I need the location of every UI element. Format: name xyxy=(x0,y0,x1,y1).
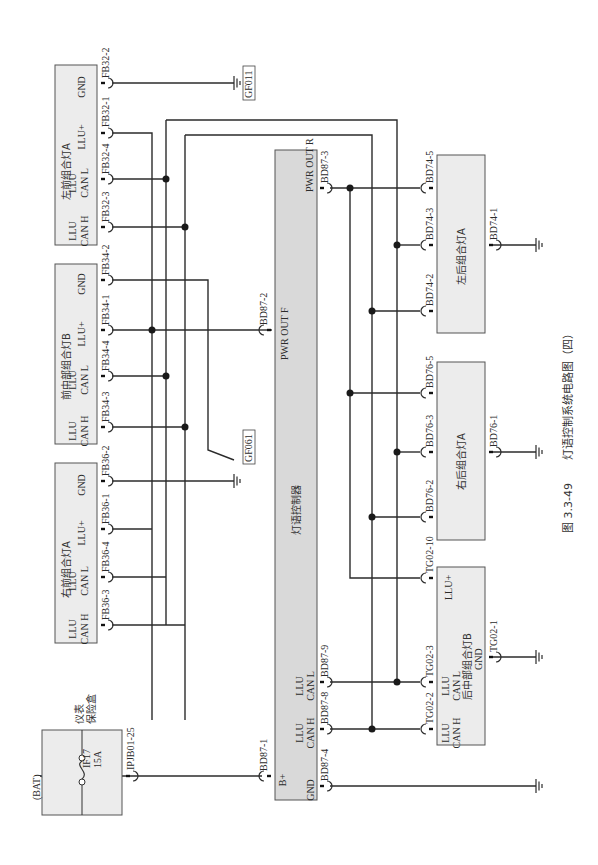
junction-dot xyxy=(394,679,401,686)
ground-icon xyxy=(234,76,240,90)
pin-label: CAN L xyxy=(79,566,90,596)
pin-label: GND xyxy=(76,474,87,496)
pin-label: LLU xyxy=(67,619,78,639)
pin-label: CAN L xyxy=(79,365,90,395)
junction-dot xyxy=(394,449,401,456)
connector-label: BD76-1 xyxy=(488,415,499,447)
rear-center-lamp-b-name: 后中部组合灯B xyxy=(461,633,473,700)
connector-label: BD87-4 xyxy=(319,749,330,781)
connector-label: BD87-3 xyxy=(319,151,330,183)
connector-label: BD87-9 xyxy=(319,645,330,677)
junction-dot xyxy=(347,185,354,192)
connector-label: FB34-4 xyxy=(100,340,111,371)
ground-icon xyxy=(536,779,542,793)
wire-fb34-gnd xyxy=(112,280,234,460)
junction-dot xyxy=(369,514,376,521)
connector-label: FB32-3 xyxy=(100,191,111,222)
junction-dot xyxy=(347,390,354,397)
connector-icon xyxy=(101,222,113,232)
pin-label: CAN L xyxy=(79,168,90,198)
pin-label: LLU xyxy=(294,676,305,696)
connector-icon xyxy=(421,240,433,250)
connector-label: FB36-1 xyxy=(100,493,111,524)
junction-dot xyxy=(369,726,376,733)
connector-icon xyxy=(101,275,113,285)
wiring-diagram: GF011 GF061 xyxy=(0,0,598,865)
pin-label: CAN H xyxy=(79,216,90,247)
pin-label: LLU xyxy=(67,221,78,241)
fuse-box-name-line2: 保险盒 xyxy=(85,694,97,724)
connector-label: FB36-3 xyxy=(100,589,111,620)
connector-label: FB36-2 xyxy=(100,445,111,476)
figure-caption-number: 图 3.3-49 xyxy=(562,483,575,533)
b-plus-label: B+ xyxy=(277,773,288,786)
connector-label: BD87-2 xyxy=(258,293,269,325)
connector-icon xyxy=(101,78,113,88)
pwr-out-f-label: PWR OUT F xyxy=(279,307,290,360)
connector-label: BD87-8 xyxy=(319,692,330,724)
junction-dot xyxy=(163,373,170,380)
connector-label: BD76-3 xyxy=(424,415,435,447)
connector-icon xyxy=(101,620,113,630)
pwr-out-r-label: PWR OUT R xyxy=(304,138,315,192)
connector-icon xyxy=(421,388,433,398)
bat-label: (BAT) xyxy=(31,774,43,800)
pin-label: CAN H xyxy=(305,718,316,749)
connector-label: BD74-3 xyxy=(424,208,435,240)
connector-icon xyxy=(421,183,433,193)
connector-label: IPJB01-25 xyxy=(125,727,136,770)
fuse-rating: 15A xyxy=(92,750,103,768)
pin-label: LLU+ xyxy=(76,321,87,346)
pin-label: GND xyxy=(473,648,484,670)
junction-dot xyxy=(369,308,376,315)
connector-label: BD74-1 xyxy=(488,208,499,240)
connector-label: FB32-2 xyxy=(100,47,111,78)
controller-name: 灯语控制器 xyxy=(290,485,302,535)
pin-label: LLU xyxy=(294,723,305,743)
fuse-id: IF17 xyxy=(81,749,92,768)
pin-label: CAN H xyxy=(79,416,90,447)
junction-dot xyxy=(149,327,156,334)
connector-icon xyxy=(101,476,113,486)
connector-icon xyxy=(421,447,433,457)
light-language-controller-box xyxy=(275,150,317,800)
connector-icon xyxy=(421,677,433,687)
pin-label: LLU xyxy=(67,571,78,591)
connector-icon xyxy=(101,325,113,335)
junction-dot xyxy=(182,224,189,231)
connector-label: TG02-3 xyxy=(424,645,435,677)
connector-icon xyxy=(101,572,113,582)
connector-label: TG02-2 xyxy=(424,692,435,724)
pin-label: LLU+ xyxy=(76,124,87,149)
connector-label: FB34-1 xyxy=(100,294,111,325)
pin-label: LLU xyxy=(67,421,78,441)
left-rear-lamp-a-name: 左后组合灯A xyxy=(455,228,467,285)
figure-caption-title: 灯语控制系统电路图（四） xyxy=(561,328,575,460)
pin-label: LLU xyxy=(440,723,451,743)
ground-label-gf061: GF061 xyxy=(243,434,254,462)
connector-icon xyxy=(101,174,113,184)
pin-label: GND xyxy=(76,76,87,98)
connector-icon xyxy=(421,306,433,316)
fuse-box-name-line1: 仪表 xyxy=(73,704,85,724)
gnd-label: GND xyxy=(305,779,316,801)
junction-dot xyxy=(182,424,189,431)
wire-pwr-out-r-bus xyxy=(350,188,420,578)
pin-label: CAN H xyxy=(451,718,462,749)
pin-label: LLU xyxy=(67,370,78,390)
connector-icon xyxy=(421,512,433,522)
pin-label: CAN H xyxy=(79,614,90,645)
connector-icon xyxy=(101,371,113,381)
connector-icon xyxy=(421,724,433,734)
ground-icon xyxy=(536,238,542,252)
ground-icon xyxy=(234,474,240,488)
pin-label: CAN L xyxy=(451,671,462,701)
pin-label: GND xyxy=(76,273,87,295)
connector-icon xyxy=(101,524,113,534)
ground-icon xyxy=(536,445,542,459)
right-rear-lamp-a-name: 右后组合灯A xyxy=(455,433,467,490)
connector-label: TG02-1 xyxy=(488,620,499,652)
connector-icon xyxy=(101,422,113,432)
connector-label: BD74-2 xyxy=(424,274,435,306)
connector-icon xyxy=(101,128,113,138)
